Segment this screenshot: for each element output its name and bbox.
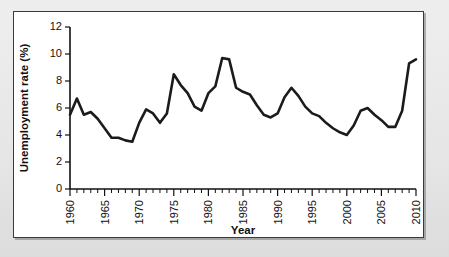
- x-tick-label: 1985: [237, 200, 249, 224]
- x-tick-label: 2005: [375, 200, 387, 224]
- x-tick-label: 1990: [272, 200, 284, 224]
- x-axis: 1960196519701975198019851990199520002005…: [64, 189, 422, 236]
- x-axis-title: Year: [231, 224, 256, 236]
- x-tick-label: 1965: [99, 200, 111, 224]
- y-tick-label: 12: [50, 20, 62, 32]
- y-tick-label: 2: [56, 155, 62, 167]
- y-tick-label: 0: [56, 182, 62, 194]
- x-tick-label: 2000: [341, 200, 353, 224]
- x-tick-label: 1975: [168, 200, 180, 224]
- x-axis-tick-labels: 1960196519701975198019851990199520002005…: [64, 200, 422, 224]
- page-background: 024681012 Unemployment rate (%) 19601965…: [0, 0, 449, 257]
- x-tick-label: 1970: [133, 200, 145, 224]
- unemployment-rate-line-chart: 024681012 Unemployment rate (%) 19601965…: [14, 12, 425, 239]
- series-line-unemployment-rate: [70, 58, 416, 142]
- y-tick-label: 8: [56, 74, 62, 86]
- y-tick-label: 10: [50, 47, 62, 59]
- x-tick-label: 1980: [202, 200, 214, 224]
- y-axis-title: Unemployment rate (%): [18, 44, 30, 173]
- x-tick-label: 1960: [64, 200, 76, 224]
- x-tick-label: 1995: [306, 200, 318, 224]
- y-tick-label: 6: [56, 101, 62, 113]
- y-axis: 024681012 Unemployment rate (%): [18, 20, 70, 194]
- figure-card: 024681012 Unemployment rate (%) 19601965…: [13, 11, 424, 238]
- x-axis-ticks: [70, 189, 416, 196]
- y-axis-tick-labels: 024681012: [50, 20, 62, 194]
- y-tick-label: 4: [56, 128, 62, 140]
- x-tick-label: 2010: [410, 200, 422, 224]
- chart-plot-area: 024681012 Unemployment rate (%) 19601965…: [14, 12, 423, 237]
- chart-series-group: [70, 58, 416, 142]
